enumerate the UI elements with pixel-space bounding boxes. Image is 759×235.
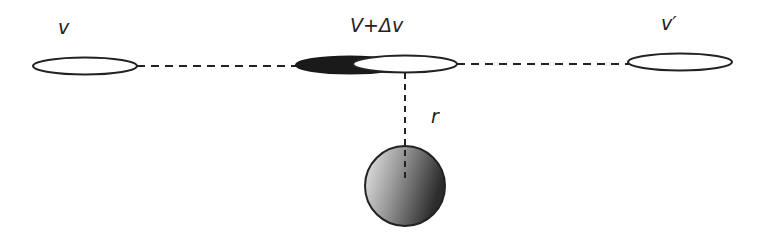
ellipse-v-delta bbox=[353, 56, 457, 73]
label-r: r bbox=[431, 107, 439, 126]
label-v-plus-delta-v: V+Δv bbox=[350, 16, 403, 35]
ellipse-v-prime bbox=[628, 54, 732, 71]
ellipse-v bbox=[33, 58, 137, 75]
sphere bbox=[365, 146, 445, 226]
label-v: v bbox=[58, 18, 69, 37]
label-v-prime: v′ bbox=[661, 14, 677, 33]
